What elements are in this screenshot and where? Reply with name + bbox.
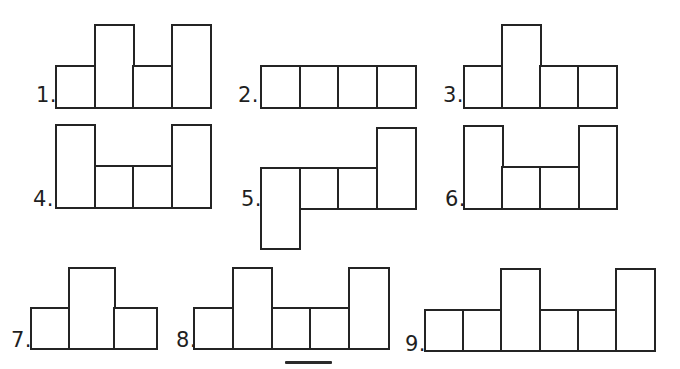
- figure-9-box-2-square: [462, 309, 503, 352]
- figures-layer: 1.2.3.4.5.6.7.8.9.: [0, 0, 680, 369]
- figure-4-box-4-tall: [171, 124, 212, 209]
- figure-8-box-1-square: [193, 307, 234, 350]
- figure-7-box-1-square: [30, 307, 71, 350]
- figure-9: 9.: [0, 0, 680, 369]
- figure-2: 2.: [0, 0, 680, 369]
- figure-1-box-3-square: [132, 65, 173, 109]
- figure-6-box-3-square: [539, 166, 580, 210]
- figure-2-box-1-square: [260, 65, 301, 109]
- figure-3-box-3-square: [539, 65, 580, 109]
- figure-9-box-4-square: [539, 309, 580, 352]
- figure-5-box-2-square: [299, 167, 340, 210]
- figure-2-box-2-square: [299, 65, 340, 109]
- figure-3-number-label: 3.: [443, 85, 464, 106]
- figure-4-box-1-tall: [55, 124, 96, 209]
- figure-7: 7.: [0, 0, 680, 369]
- figure-8-box-3-square: [271, 307, 312, 350]
- figure-1-box-1-square: [55, 65, 96, 109]
- figure-7-number-label: 7.: [11, 330, 32, 351]
- figure-4: 4.: [0, 0, 680, 369]
- worksheet-page: 1.2.3.4.5.6.7.8.9.: [0, 0, 680, 369]
- figure-8-box-5-tall: [348, 267, 389, 350]
- figure-6: 6.: [0, 0, 680, 369]
- figure-5-box-4-tall: [376, 127, 417, 210]
- figure-8-box-4-square: [309, 307, 350, 350]
- figure-4-box-3-square: [132, 165, 173, 209]
- figure-1-box-2-tall: [94, 24, 135, 109]
- figure-6-number-label: 6.: [445, 189, 466, 210]
- figure-9-box-5-square: [577, 309, 618, 352]
- figure-2-number-label: 2.: [238, 85, 259, 106]
- figure-8-box-2-tall: [232, 267, 273, 350]
- figure-4-number-label: 4.: [33, 189, 54, 210]
- figure-9-box-3-tall: [500, 268, 541, 352]
- figure-6-box-2-square: [501, 166, 542, 210]
- figure-2-box-4-square: [376, 65, 417, 109]
- figure-5-number-label: 5.: [241, 189, 262, 210]
- figure-1: 1.: [0, 0, 680, 369]
- figure-7-box-2-tall: [68, 267, 116, 350]
- figure-3: 3.: [0, 0, 680, 369]
- figure-3-box-1-square: [463, 65, 504, 109]
- figure-5: 5.: [0, 0, 680, 369]
- figure-5-box-3-square: [337, 167, 378, 210]
- cropped-figure-top-edge: [285, 361, 332, 364]
- figure-9-number-label: 9.: [405, 334, 426, 355]
- figure-2-box-3-square: [337, 65, 378, 109]
- figure-6-box-4-tall: [578, 125, 619, 210]
- figure-6-box-1-tall: [463, 125, 504, 210]
- figure-3-box-2-tall: [501, 24, 542, 109]
- figure-9-box-6-tall: [615, 268, 656, 352]
- figure-1-box-4-tall: [171, 24, 212, 109]
- figure-4-box-2-square: [94, 165, 135, 209]
- figure-8-number-label: 8.: [176, 330, 197, 351]
- figure-3-box-4-square: [577, 65, 618, 109]
- figure-8: 8.: [0, 0, 680, 369]
- figure-9-box-1-square: [424, 309, 465, 352]
- figure-7-box-3-square: [113, 307, 158, 350]
- figure-5-box-1-tall: [260, 167, 301, 250]
- figure-1-number-label: 1.: [36, 85, 57, 106]
